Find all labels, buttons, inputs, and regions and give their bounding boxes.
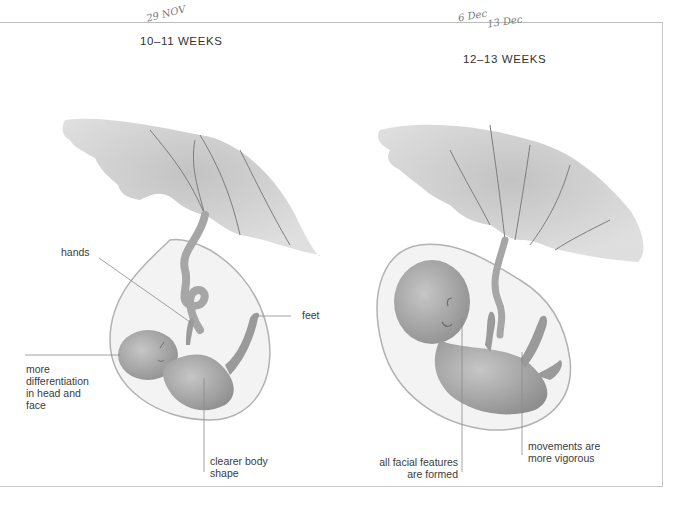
label-movements-line1: movements are: [528, 440, 600, 452]
label-feet: feet: [302, 309, 320, 321]
label-movements: movements are more vigorous: [528, 440, 600, 464]
label-body-line2: shape: [210, 467, 268, 479]
label-facial-line1: all facial features: [360, 456, 458, 468]
label-body-line1: clearer body: [210, 455, 268, 467]
label-facial-line2: are formed: [360, 468, 458, 480]
label-movements-line2: more vigorous: [528, 452, 600, 464]
label-body-shape: clearer body shape: [210, 455, 268, 479]
placenta-right: [378, 125, 643, 262]
label-head-face-line2: differentiation: [26, 375, 89, 387]
label-hands: hands: [61, 246, 90, 258]
label-head-face-line3: in head and: [26, 387, 89, 399]
placenta-left: [63, 119, 320, 256]
label-head-face: more differentiation in head and face: [26, 363, 89, 411]
fetus-illustrations: [0, 0, 684, 508]
label-head-face-line1: more: [26, 363, 89, 375]
label-head-face-line4: face: [26, 399, 89, 411]
label-facial-features: all facial features are formed: [360, 456, 458, 480]
